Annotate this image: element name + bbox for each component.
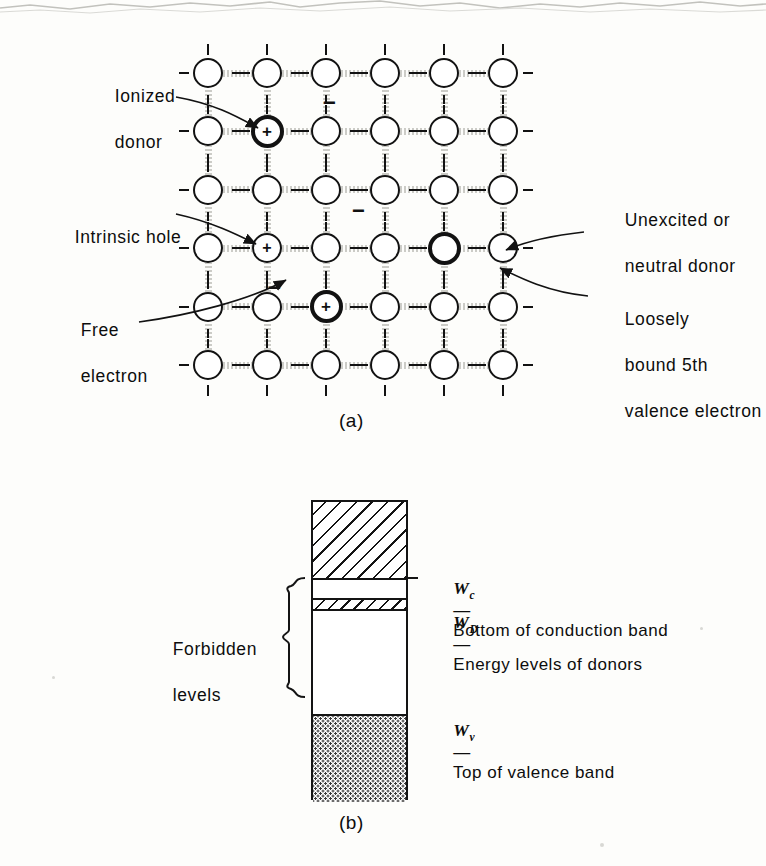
label-forbidden-line2: levels <box>173 685 221 705</box>
donor-level-region <box>313 598 406 611</box>
ionized-donor-atom: + <box>251 115 284 148</box>
lattice-atom <box>193 58 223 88</box>
label-intrinsic-hole: Intrinsic hole <box>42 203 181 272</box>
figure-canvas: +++ − − − Ionized donor <box>0 0 766 866</box>
lattice-atom <box>370 350 400 380</box>
lattice-atom <box>429 58 459 88</box>
atom-charge-sign: + <box>255 119 280 144</box>
lattice-atom <box>252 175 282 205</box>
panel-a: +++ − − − Ionized donor <box>0 0 766 450</box>
neutral-donor-atom <box>428 232 461 265</box>
panel-a-caption: (a) <box>339 410 364 432</box>
label-donor-levels: WD — Energy levels of donors <box>422 592 643 695</box>
symbol-wd-letter: W <box>453 612 469 632</box>
label-neutral-donor: Unexcited or neutral donor <box>592 186 736 301</box>
symbol-wd-subscript: D <box>469 623 478 635</box>
label-free-electron-line1: Free <box>81 320 119 340</box>
free-minus-top: − <box>323 92 336 114</box>
lattice-atom <box>311 116 341 146</box>
lattice-atom <box>311 175 341 205</box>
symbol-wv-subscript: v <box>469 731 475 743</box>
lattice-atom <box>488 233 518 263</box>
lattice-atom <box>488 350 518 380</box>
label-forbidden-line1: Forbidden <box>173 639 257 659</box>
lattice-atom <box>193 350 223 380</box>
intrinsic-hole-atom: + <box>252 233 282 263</box>
text-valence-band: Top of valence band <box>453 763 615 782</box>
label-loose-valence-electron: Loosely bound 5th valence electron <box>592 285 762 446</box>
label-neutral-donor-line2: neutral donor <box>625 256 736 276</box>
label-intrinsic-hole-text: Intrinsic hole <box>75 227 182 247</box>
lattice-atom <box>429 350 459 380</box>
label-loose-electron-line3: valence electron <box>625 401 762 421</box>
label-ionized-donor-line1: Ionized <box>115 86 176 106</box>
label-ionized-donor: Ionized donor <box>82 62 175 177</box>
lattice-atom <box>311 58 341 88</box>
conduction-band-region <box>313 502 406 580</box>
lattice-atom <box>193 175 223 205</box>
lattice-atom <box>193 292 223 322</box>
lattice-atom <box>488 58 518 88</box>
lattice-atom <box>488 116 518 146</box>
label-ionized-donor-line2: donor <box>115 132 163 152</box>
free-minus-electron: − <box>268 277 281 299</box>
lattice-atom <box>370 292 400 322</box>
atom-charge-sign: + <box>314 294 339 319</box>
lattice-atom <box>311 350 341 380</box>
label-neutral-donor-line1: Unexcited or <box>625 210 730 230</box>
label-forbidden-levels: Forbidden levels <box>140 615 257 730</box>
lattice-atom <box>370 175 400 205</box>
energy-band-column <box>311 500 408 800</box>
label-loose-electron-line2: bound 5th <box>625 355 708 375</box>
lattice-atom <box>429 116 459 146</box>
lattice-atom <box>488 292 518 322</box>
panel-b: Forbidden levels Wc — Bottom of conducti… <box>0 460 766 866</box>
lattice-atom <box>488 175 518 205</box>
ionized-donor-atom-2: + <box>310 290 343 323</box>
valence-band-region <box>313 714 406 802</box>
label-free-electron-line2: electron <box>81 366 148 386</box>
label-valence-band: Wv — Top of valence band <box>422 700 615 803</box>
lattice-atom <box>252 350 282 380</box>
lattice-atom <box>193 233 223 263</box>
dash-wd: — <box>453 635 471 654</box>
atom-charge-sign: + <box>254 235 280 261</box>
lattice-atom <box>370 58 400 88</box>
lattice-atom <box>311 233 341 263</box>
symbol-wv: Wv <box>453 720 475 740</box>
dash-wv: — <box>453 743 471 762</box>
lattice-atom <box>429 175 459 205</box>
lattice-atom <box>429 292 459 322</box>
lattice-atom <box>252 58 282 88</box>
lattice-atom <box>193 116 223 146</box>
lattice-atom <box>370 233 400 263</box>
symbol-wd: WD <box>453 612 478 632</box>
panel-b-caption: (b) <box>339 812 364 834</box>
label-free-electron: Free electron <box>48 296 148 411</box>
symbol-wv-letter: W <box>453 720 469 740</box>
lattice-atom <box>370 116 400 146</box>
free-minus-middle: − <box>352 200 365 222</box>
text-donor-levels: Energy levels of donors <box>453 655 642 674</box>
label-loose-electron-line1: Loosely <box>625 309 690 329</box>
